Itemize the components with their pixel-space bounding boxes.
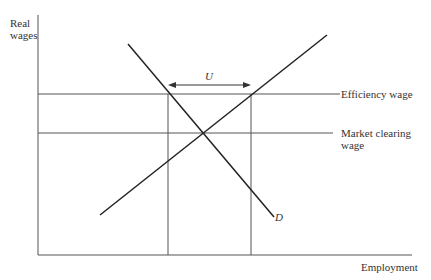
unemployment-label: U xyxy=(205,70,213,82)
demand-curve xyxy=(128,44,274,217)
demand-label: D xyxy=(275,211,283,223)
efficiency-wage-label: Efficiency wage xyxy=(341,88,413,100)
x-axis-label: Employment xyxy=(361,261,418,273)
unemployment-arrow xyxy=(168,82,251,88)
supply-curve xyxy=(100,35,327,215)
market-clearing-wage-label: Market clearing wage xyxy=(341,127,411,151)
y-axis-label: Real wages xyxy=(10,17,38,41)
